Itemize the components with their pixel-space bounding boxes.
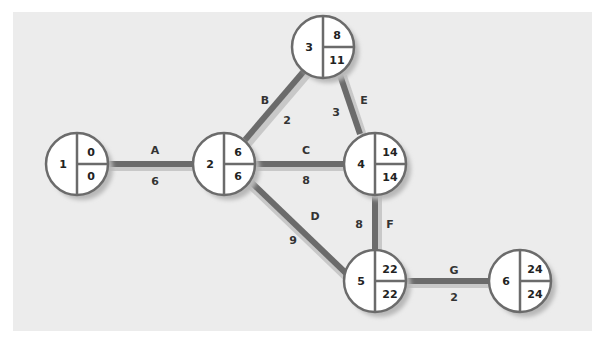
edge-A-duration: 6	[151, 175, 159, 188]
node-2-id: 2	[206, 158, 214, 171]
edges: A 6 B 2 C 8 D 9 E 3	[109, 71, 488, 304]
node-5-latest: 22	[382, 288, 397, 301]
node-1-earliest: 0	[87, 146, 95, 159]
node-3-earliest: 8	[333, 29, 341, 42]
node-5: 5 22 22	[344, 250, 411, 317]
edge-C-duration: 8	[302, 174, 310, 187]
edge-C: C 8	[256, 144, 343, 187]
edge-D-duration: 9	[289, 234, 297, 247]
edge-B-duration: 2	[283, 114, 291, 127]
node-5-earliest: 22	[382, 263, 397, 276]
edge-F-activity: F	[386, 218, 394, 231]
edge-G: G 2	[407, 264, 488, 304]
edge-E-duration: 3	[332, 106, 340, 119]
node-6-id: 6	[502, 275, 510, 288]
node-4-earliest: 14	[382, 146, 398, 159]
edge-D: D 9	[250, 182, 350, 281]
node-4-id: 4	[357, 158, 365, 171]
node-2-earliest: 6	[234, 146, 242, 159]
edge-C-activity: C	[302, 144, 310, 157]
network-diagram: A 6 B 2 C 8 D 9 E 3	[0, 0, 605, 343]
edge-D-activity: D	[310, 210, 319, 223]
node-1-latest: 0	[87, 170, 95, 183]
edge-B: B 2	[245, 71, 308, 144]
node-5-id: 5	[357, 275, 365, 288]
edge-G-activity: G	[449, 264, 458, 277]
edge-F-duration: 8	[355, 218, 363, 231]
node-6-earliest: 24	[527, 263, 543, 276]
node-1-id: 1	[59, 158, 67, 171]
node-4: 4 14 14	[344, 133, 411, 200]
edge-A-activity: A	[151, 144, 160, 157]
node-6-latest: 24	[527, 288, 543, 301]
node-6: 6 24 24	[489, 250, 556, 317]
node-3-latest: 11	[329, 54, 344, 67]
edge-E-activity: E	[360, 94, 368, 107]
node-4-latest: 14	[382, 171, 398, 184]
edge-G-duration: 2	[450, 291, 458, 304]
node-2-latest: 6	[234, 170, 242, 183]
edge-A: A 6	[109, 144, 192, 188]
edge-B-activity: B	[261, 94, 269, 107]
edge-E: E 3	[332, 75, 368, 136]
node-3-id: 3	[305, 41, 313, 54]
node-1: 1 0 0	[46, 133, 113, 200]
